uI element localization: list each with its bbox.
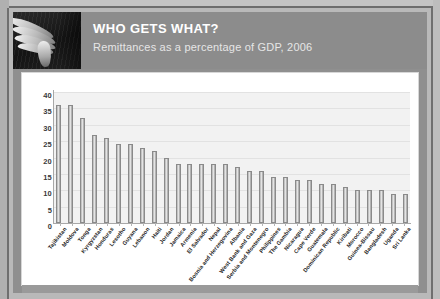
- x-tick-mark: [250, 223, 251, 226]
- y-tick-label: 0: [48, 223, 52, 230]
- x-tick-mark: [345, 223, 346, 226]
- y-tick-label: 10: [43, 190, 52, 197]
- y-tick-label: 5: [48, 207, 52, 214]
- bar: [104, 138, 109, 223]
- x-axis-labels: TajikistanMoldovaTongaKyrgyzstanHonduras…: [54, 226, 410, 284]
- chart-area: 0510152025303540 TajikistanMoldovaTongaK…: [22, 73, 418, 285]
- x-tick-mark: [72, 223, 73, 226]
- x-tick-mark: [392, 223, 393, 226]
- x-tick-mark: [131, 223, 132, 226]
- page-root: WHO GETS WHAT? Remittances as a percenta…: [0, 0, 440, 299]
- y-tick-label: 15: [43, 174, 52, 181]
- y-tick-label: 30: [43, 125, 52, 132]
- x-tick-mark: [333, 223, 334, 226]
- panel-bottom-strip: [22, 285, 418, 293]
- header-text-block: WHO GETS WHAT? Remittances as a percenta…: [93, 21, 312, 54]
- page-frame-right: [433, 0, 440, 299]
- x-tick-mark: [202, 223, 203, 226]
- y-axis-labels: 0510152025303540: [30, 93, 52, 221]
- bar: [56, 105, 61, 223]
- x-tick-mark: [274, 223, 275, 226]
- y-tick-label: 25: [43, 141, 52, 148]
- infographic-panel: WHO GETS WHAT? Remittances as a percenta…: [13, 12, 427, 293]
- hand-photo: [13, 12, 81, 69]
- x-tick-mark: [380, 223, 381, 226]
- x-tick-mark: [404, 223, 405, 226]
- x-tick-mark: [84, 223, 85, 226]
- x-tick-mark: [368, 223, 369, 226]
- x-tick-mark: [214, 223, 215, 226]
- x-tick-mark: [167, 223, 168, 226]
- x-tick-mark: [297, 223, 298, 226]
- x-tick-mark: [321, 223, 322, 226]
- chart-card: 0510152025303540 TajikistanMoldovaTongaK…: [22, 73, 418, 285]
- page-rule-left: [7, 8, 9, 299]
- panel-header: WHO GETS WHAT? Remittances as a percenta…: [13, 12, 427, 69]
- x-tick-mark: [179, 223, 180, 226]
- x-tick-mark: [357, 223, 358, 226]
- page-title: WHO GETS WHAT?: [93, 21, 312, 36]
- x-tick-mark: [190, 223, 191, 226]
- x-tick-label: Sri Lanka: [407, 205, 428, 229]
- bar: [68, 105, 73, 223]
- page-subtitle: Remittances as a percentage of GDP, 2006: [93, 40, 312, 54]
- y-tick-label: 40: [43, 92, 52, 99]
- y-tick-label: 20: [43, 158, 52, 165]
- y-tick-label: 35: [43, 108, 52, 115]
- x-tick-mark: [226, 223, 227, 226]
- bar: [164, 158, 169, 224]
- page-rule-top: [0, 6, 440, 8]
- x-tick-mark: [60, 223, 61, 226]
- x-tick-mark: [238, 223, 239, 226]
- x-tick-mark: [262, 223, 263, 226]
- x-tick-mark: [119, 223, 120, 226]
- x-tick-mark: [107, 223, 108, 226]
- x-tick-mark: [285, 223, 286, 226]
- x-tick-mark: [309, 223, 310, 226]
- x-tick-mark: [155, 223, 156, 226]
- x-tick-mark: [143, 223, 144, 226]
- x-tick-mark: [96, 223, 97, 226]
